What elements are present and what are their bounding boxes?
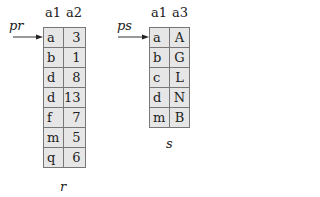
table-cell: a [150, 28, 170, 48]
table-cell: G [170, 48, 190, 68]
table-cell: N [170, 88, 190, 108]
table-cell: B [170, 108, 190, 128]
table-cell: d [150, 88, 170, 108]
table-row: cL [150, 68, 190, 88]
table-row: aA [150, 28, 190, 48]
table-cell: m [150, 108, 170, 128]
table-cell: b [150, 48, 170, 68]
table-row: bG [150, 48, 190, 68]
column-header: a3 [170, 6, 190, 20]
table-cell: c [150, 68, 170, 88]
table-cell: A [170, 28, 190, 48]
relation-name-s: s [166, 137, 173, 151]
table-row: dN [150, 88, 190, 108]
column-header: a1 [149, 6, 169, 20]
relation-table-s: aAbGcLdNmB [149, 27, 190, 128]
table-cell: L [170, 68, 190, 88]
table-row: mB [150, 108, 190, 128]
